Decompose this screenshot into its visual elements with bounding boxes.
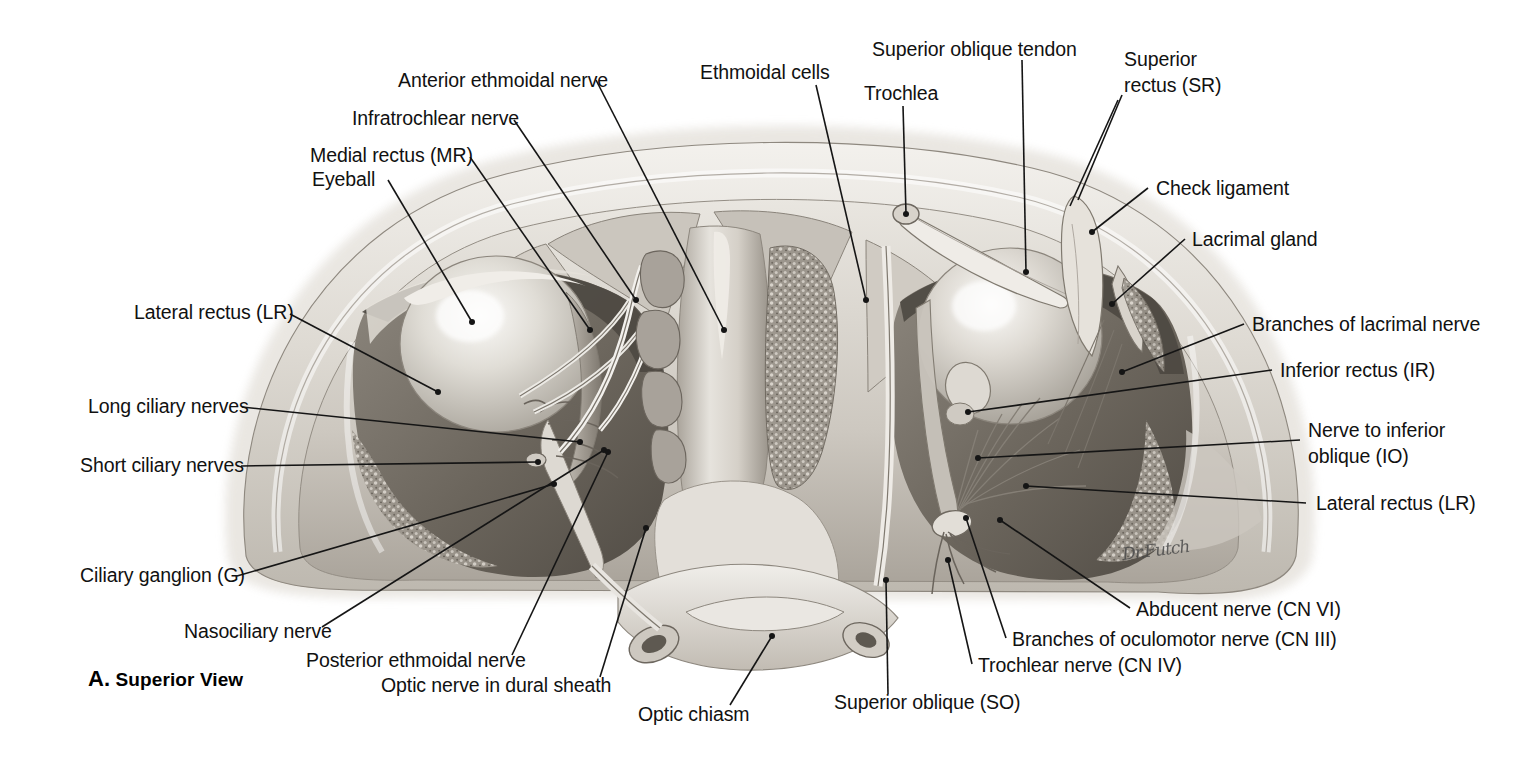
label-inferior-rectus: Inferior rectus (IR) (1280, 358, 1435, 382)
label-superior-rectus-line2: rectus (SR) (1124, 74, 1222, 96)
label-infratrochlear-nerve: Infratrochlear nerve (352, 106, 519, 130)
label-nerve-to-inferior-oblique-line2: oblique (IO) (1308, 445, 1409, 467)
label-lateral-rectus-left: Lateral rectus (LR) (134, 300, 294, 324)
orbit-dissection-illustration (0, 0, 1528, 776)
label-long-ciliary-nerves: Long ciliary nerves (88, 394, 249, 418)
label-superior-rectus-line1: Superior (1124, 48, 1197, 70)
label-branches-of-lacrimal-nerve: Branches of lacrimal nerve (1252, 312, 1480, 336)
caption-text: Superior View (116, 669, 244, 690)
label-lacrimal-gland: Lacrimal gland (1192, 227, 1317, 251)
label-medial-rectus: Medial rectus (MR) (310, 143, 473, 167)
caption-letter: A. (88, 666, 110, 691)
label-posterior-ethmoidal-nerve: Posterior ethmoidal nerve (306, 648, 526, 672)
label-lateral-rectus-right: Lateral rectus (LR) (1316, 491, 1476, 515)
label-optic-chiasm: Optic chiasm (638, 702, 750, 726)
label-nerve-to-inferior-oblique: Nerve to inferior oblique (IO) (1308, 417, 1488, 469)
label-abducent-nerve: Abducent nerve (CN VI) (1136, 597, 1341, 621)
label-ethmoidal-cells: Ethmoidal cells (700, 60, 830, 84)
label-eyeball: Eyeball (312, 167, 375, 191)
label-superior-oblique-tendon: Superior oblique tendon (872, 37, 1077, 61)
label-anterior-ethmoidal-nerve: Anterior ethmoidal nerve (398, 68, 608, 92)
label-nerve-to-inferior-oblique-line1: Nerve to inferior (1308, 419, 1445, 441)
label-superior-rectus: Superior rectus (SR) (1124, 46, 1274, 98)
anatomy-plate: Dr.Futch Anterior ethmoidal nerve Infrat… (0, 0, 1528, 776)
label-trochlear-nerve: Trochlear nerve (CN IV) (978, 653, 1182, 677)
label-trochlea: Trochlea (864, 81, 938, 105)
label-short-ciliary-nerves: Short ciliary nerves (80, 453, 244, 477)
label-check-ligament: Check ligament (1156, 176, 1289, 200)
label-ciliary-ganglion: Ciliary ganglion (G) (80, 563, 245, 587)
figure-caption: A. Superior View (88, 666, 243, 692)
label-superior-oblique: Superior oblique (SO) (834, 690, 1021, 714)
label-branches-of-oculomotor-nerve: Branches of oculomotor nerve (CN III) (1012, 627, 1337, 651)
label-nasociliary-nerve: Nasociliary nerve (184, 619, 332, 643)
label-optic-nerve-in-dural-sheath: Optic nerve in dural sheath (381, 673, 611, 697)
